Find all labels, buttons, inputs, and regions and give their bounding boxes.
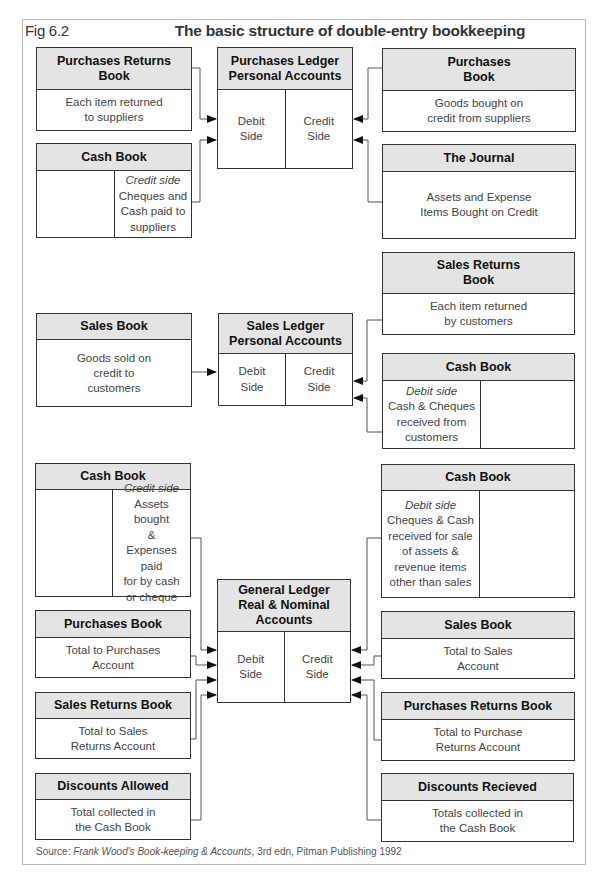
sales-book-total-box: Sales Book Total to Sales Account bbox=[381, 611, 575, 679]
general-ledger-box: General Ledger Real & Nominal Accounts D… bbox=[217, 579, 351, 703]
discounts-allowed-box: Discounts Allowed Total collected in the… bbox=[35, 773, 191, 840]
box-header: Cash Book bbox=[383, 354, 574, 381]
cash-book-credit-box: Cash Book Credit sideCheques and Cash pa… bbox=[36, 143, 192, 238]
credit-cell bbox=[479, 491, 574, 597]
debit-side-label: Debit side bbox=[388, 384, 475, 400]
ledger-header: Sales Ledger Personal Accounts bbox=[219, 314, 352, 354]
source-suffix: , 3rd edn, Pitman Publishing 1992 bbox=[252, 846, 402, 857]
box-header: Cash Book bbox=[37, 144, 191, 171]
box-header: Purchases Returns Book bbox=[37, 48, 191, 90]
box-body: Totals collected in the Cash Book bbox=[382, 801, 573, 841]
sales-ledger-box: Sales Ledger Personal Accounts Debit Sid… bbox=[218, 313, 353, 406]
box-body: Each item returned by customers bbox=[383, 294, 574, 334]
debit-side: Debit Side bbox=[218, 632, 284, 702]
box-header: Purchases Book bbox=[36, 611, 190, 638]
debit-side: Debit Side bbox=[219, 354, 285, 405]
source-work: Frank Wood's Book-keeping & Accounts bbox=[73, 846, 251, 857]
debit-cell: Debit sideCash & Cheques received from c… bbox=[383, 381, 480, 448]
box-body: Total to Sales Account bbox=[382, 639, 574, 678]
box-header: Discounts Recieved bbox=[382, 774, 573, 801]
box-header: Purchases Book bbox=[383, 49, 575, 91]
source-citation: Source: Frank Wood's Book-keeping & Acco… bbox=[36, 846, 402, 857]
sales-book-box: Sales Book Goods sold on credit to custo… bbox=[36, 313, 192, 407]
credit-cell bbox=[480, 381, 574, 448]
credit-side-label: Credit side bbox=[119, 173, 187, 189]
debit-cell bbox=[37, 171, 114, 237]
box-header: Cash Book bbox=[382, 465, 574, 491]
debit-side-text: Cheques & Cash received for sale of asse… bbox=[387, 514, 474, 588]
box-body: Each item returned to suppliers bbox=[37, 90, 191, 130]
box-body: Total collected in the Cash Book bbox=[36, 800, 190, 839]
box-header: Sales Returns Book bbox=[36, 693, 190, 719]
cash-book-left-box: Cash Book Credit sideAssets bought & Exp… bbox=[35, 463, 191, 597]
box-body: Total to Purchase Returns Account bbox=[382, 720, 574, 760]
debit-side-text: Cash & Cheques received from customers bbox=[388, 400, 475, 443]
purchases-returns-book-box: Purchases Returns Book Each item returne… bbox=[36, 47, 192, 131]
purchases-ledger-box: Purchases Ledger Personal Accounts Debit… bbox=[217, 47, 353, 169]
sales-returns-book-box: Sales Returns Book Each item returned by… bbox=[382, 252, 575, 335]
ledger-header: Purchases Ledger Personal Accounts bbox=[218, 48, 352, 90]
box-header: The Journal bbox=[383, 145, 575, 172]
debit-side-label: Debit side bbox=[387, 498, 474, 514]
source-prefix: Source: bbox=[36, 846, 73, 857]
credit-side: Credit Side bbox=[285, 354, 352, 405]
figure-label: Fig 6.2 bbox=[25, 22, 69, 39]
box-body: Total to Purchases Account bbox=[36, 638, 190, 677]
box-body: Goods bought on credit from suppliers bbox=[383, 91, 575, 131]
box-header: Sales Book bbox=[382, 612, 574, 639]
credit-cell: Credit sideCheques and Cash paid to supp… bbox=[114, 171, 191, 237]
box-header: Purchases Returns Book bbox=[382, 693, 574, 720]
credit-side: Credit Side bbox=[285, 90, 353, 168]
debit-side: Debit Side bbox=[218, 90, 285, 168]
box-header: Sales Returns Book bbox=[383, 253, 574, 294]
box-body: Total to Sales Returns Account bbox=[36, 719, 190, 758]
sales-returns-book-total-box: Sales Returns Book Total to Sales Return… bbox=[35, 692, 191, 759]
box-header: Sales Book bbox=[37, 314, 191, 340]
cash-book-right-box: Cash Book Debit sideCheques & Cash recei… bbox=[381, 464, 575, 598]
discounts-received-box: Discounts Recieved Totals collected in t… bbox=[381, 773, 574, 842]
credit-side: Credit Side bbox=[284, 632, 351, 702]
credit-side-label: Credit side bbox=[116, 481, 187, 497]
debit-cell bbox=[36, 490, 112, 596]
cash-book-debit-box: Cash Book Debit sideCash & Cheques recei… bbox=[382, 353, 575, 449]
purchases-book-box: Purchases Book Goods bought on credit fr… bbox=[382, 48, 576, 132]
box-body: Goods sold on credit to customers bbox=[37, 340, 191, 406]
box-header: Discounts Allowed bbox=[36, 774, 190, 800]
debit-cell: Debit sideCheques & Cash received for sa… bbox=[382, 491, 479, 597]
box-body: Assets and Expense Items Bought on Credi… bbox=[383, 172, 575, 238]
credit-cell: Credit sideAssets bought & Expenses paid… bbox=[112, 490, 190, 596]
journal-box: The Journal Assets and Expense Items Bou… bbox=[382, 144, 576, 239]
ledger-header: General Ledger Real & Nominal Accounts bbox=[218, 580, 350, 632]
purchases-returns-book-total-box: Purchases Returns Book Total to Purchase… bbox=[381, 692, 575, 761]
purchases-book-total-box: Purchases Book Total to Purchases Accoun… bbox=[35, 610, 191, 678]
credit-side-text: Cheques and Cash paid to suppliers bbox=[119, 190, 187, 233]
figure-title: The basic structure of double-entry book… bbox=[140, 22, 560, 40]
credit-side-text: Assets bought & Expenses paid for by cas… bbox=[123, 498, 179, 603]
